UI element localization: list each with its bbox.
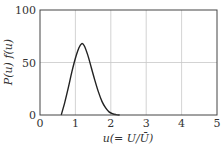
x-tick-label: 2 xyxy=(107,117,114,130)
y-axis-ticks: 050100 xyxy=(15,4,36,122)
y-tick-label: 100 xyxy=(15,4,36,17)
grid-lines xyxy=(40,10,217,115)
y-axis-label: P(u) f(u) xyxy=(2,39,15,86)
x-axis-label: u(= U/Ū) xyxy=(103,132,154,145)
y-tick-label: 50 xyxy=(22,57,36,70)
x-axis-ticks: 012345 xyxy=(37,117,221,130)
line-chart: 012345 050100 u(= U/Ū) P(u) f(u) xyxy=(0,0,222,149)
x-tick-label: 4 xyxy=(178,117,185,130)
x-tick-label: 0 xyxy=(37,117,44,130)
x-tick-label: 5 xyxy=(214,117,221,130)
x-tick-label: 1 xyxy=(72,117,79,130)
x-tick-label: 3 xyxy=(143,117,150,130)
y-tick-label: 0 xyxy=(29,109,36,122)
